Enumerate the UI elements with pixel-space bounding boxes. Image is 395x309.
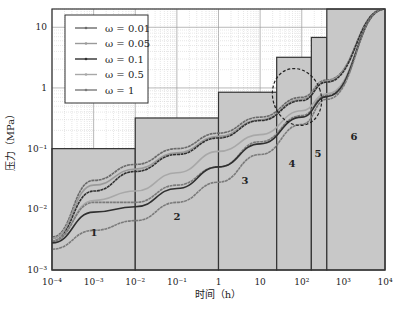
legend-marker [85,58,88,61]
legend-label: ω = 0.05 [105,38,150,49]
y-tick-label: 10⁻² [27,204,47,214]
legend-marker [85,73,88,76]
region-label-5: 5 [315,148,322,159]
x-tick-label: 1 [216,277,222,287]
region-label-6: 6 [351,131,358,142]
x-tick-label: 10⁻⁴ [42,277,62,287]
y-axis-ticks: 10⁻³10⁻²10⁻¹110 [27,22,47,275]
y-tick-label: 10⁻³ [27,265,47,275]
x-tick-label: 10 [254,277,266,287]
x-tick-label: 10² [294,277,309,287]
x-axis-ticks: 10⁻⁴10⁻³10⁻²10⁻¹11010²10³10⁴ [42,277,393,287]
legend-marker [85,89,88,92]
x-tick-label: 10⁴ [377,277,392,287]
x-tick-label: 10⁻¹ [167,277,187,287]
y-axis-title: 压力（MPa） [4,109,16,171]
legend-label: ω = 1 [105,85,134,96]
legend-label: ω = 0.5 [105,69,144,80]
region-label-2: 2 [174,211,181,222]
x-tick-label: 10⁻² [125,277,145,287]
y-tick-label: 10 [36,22,48,32]
x-tick-label: 10³ [336,277,351,287]
legend-marker [85,42,88,45]
legend-label: ω = 0.01 [105,23,150,34]
legend-label: ω = 0.1 [105,54,144,65]
legend-marker [85,27,88,30]
pressure-time-chart: 123456 10⁻⁴10⁻³10⁻²10⁻¹11010²10³10⁴ 10⁻³… [0,0,395,309]
region-label-3: 3 [242,175,249,186]
y-tick-label: 1 [41,83,47,93]
y-tick-label: 10⁻¹ [27,144,47,154]
legend: ω = 0.01ω = 0.05ω = 0.1ω = 0.5ω = 1 [65,15,150,103]
x-tick-label: 10⁻³ [84,277,104,287]
x-axis-title: 时间（h） [195,288,241,300]
region-label-1: 1 [91,227,98,238]
region-label-4: 4 [289,158,296,169]
